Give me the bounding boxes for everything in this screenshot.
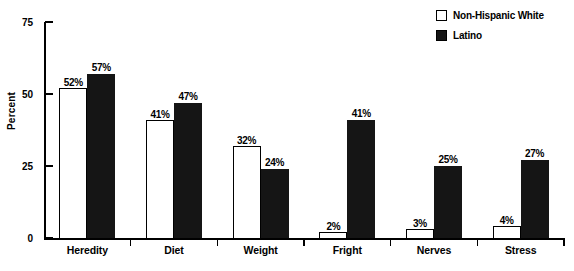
legend-entry-non-hispanic-white: Non-Hispanic White: [436, 7, 574, 23]
category-label-weight: Weight: [244, 244, 278, 256]
bar-value-label: 27%: [525, 148, 544, 159]
bar-value-label: 2%: [326, 221, 340, 232]
y-axis-title: Percent: [6, 92, 17, 130]
legend-swatch-non-hispanic-white: [436, 10, 447, 21]
y-tick-label: 50: [22, 89, 33, 100]
bar-value-label: 52%: [64, 77, 83, 88]
y-axis-line: [44, 22, 46, 238]
bar-value-label: 24%: [265, 157, 284, 168]
bar-diet-latino: 47%: [174, 103, 202, 238]
bar-value-label: 3%: [413, 218, 427, 229]
bar-value-label: 4%: [500, 215, 514, 226]
x-tick-mark: [563, 238, 565, 246]
bar-heredity-latino: 57%: [87, 74, 115, 238]
y-tick-label: 25: [22, 161, 33, 172]
category-label-diet: Diet: [164, 244, 183, 256]
bar-value-label: 41%: [352, 108, 371, 119]
y-tick-label: 0: [27, 233, 33, 244]
x-tick-mark: [130, 238, 132, 246]
bar-value-label: 41%: [150, 109, 169, 120]
y-tick-mark: [45, 165, 53, 167]
x-tick-mark: [217, 238, 219, 246]
category-label-heredity: Heredity: [67, 244, 108, 256]
bar-fright-non-hispanic-white: 2%: [319, 232, 347, 238]
x-tick-mark: [477, 238, 479, 246]
bar-chart-figure: Non-Hispanic White Latino Percent 025507…: [0, 0, 574, 271]
bar-value-label: 47%: [178, 91, 197, 102]
bar-weight-non-hispanic-white: 32%: [233, 146, 261, 238]
category-label-nerves: Nerves: [417, 244, 451, 256]
bar-heredity-non-hispanic-white: 52%: [59, 88, 87, 238]
category-label-fright: Fright: [333, 244, 362, 256]
bar-nerves-non-hispanic-white: 3%: [406, 229, 434, 238]
bar-stress-non-hispanic-white: 4%: [493, 226, 521, 238]
legend-label-non-hispanic-white: Non-Hispanic White: [453, 10, 544, 21]
plot-area: 0255075 52%57%41%47%32%24%2%41%3%25%4%27…: [44, 22, 564, 238]
y-tick-mark: [45, 21, 53, 23]
bar-stress-latino: 27%: [521, 160, 549, 238]
y-tick-label: 75: [22, 17, 33, 28]
x-tick-mark: [390, 238, 392, 246]
bar-value-label: 57%: [92, 62, 111, 73]
bar-value-label: 25%: [438, 154, 457, 165]
bar-weight-latino: 24%: [261, 169, 289, 238]
bar-value-label: 32%: [237, 135, 256, 146]
y-tick-mark: [45, 237, 53, 239]
y-tick-mark: [45, 93, 53, 95]
bar-diet-non-hispanic-white: 41%: [146, 120, 174, 238]
category-label-stress: Stress: [505, 244, 537, 256]
x-tick-mark: [303, 238, 305, 246]
bar-nerves-latino: 25%: [434, 166, 462, 238]
bar-fright-latino: 41%: [347, 120, 375, 238]
